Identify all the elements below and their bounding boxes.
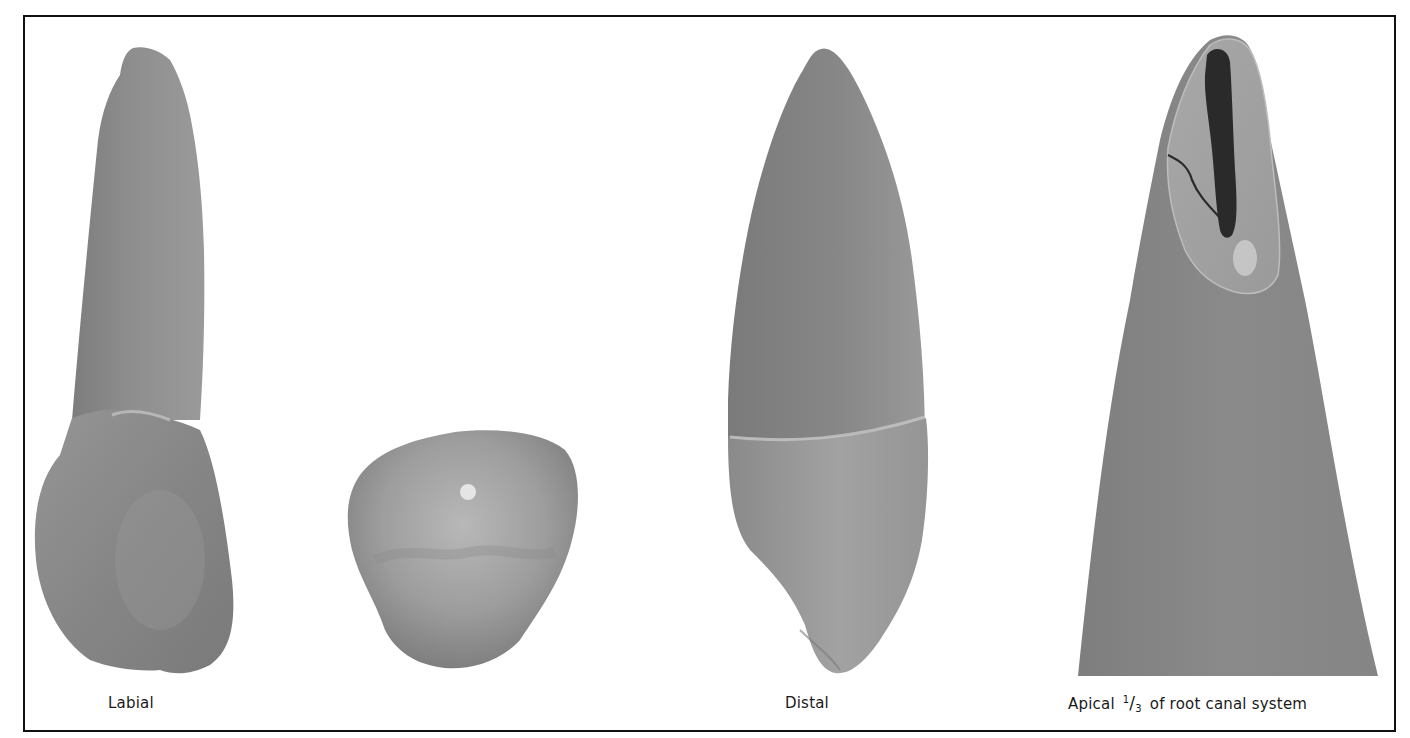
caption-distal: Distal <box>785 694 829 712</box>
caption-apical-third: Apical 1/3 of root canal system <box>1068 694 1307 715</box>
figure-frame <box>23 15 1396 732</box>
caption-labial: Labial <box>108 694 154 712</box>
fraction-numerator: 1 <box>1123 694 1130 705</box>
caption-apical-prefix: Apical <box>1068 695 1120 713</box>
fraction-denominator: 3 <box>1135 703 1142 714</box>
caption-apical-suffix: of root canal system <box>1145 695 1307 713</box>
